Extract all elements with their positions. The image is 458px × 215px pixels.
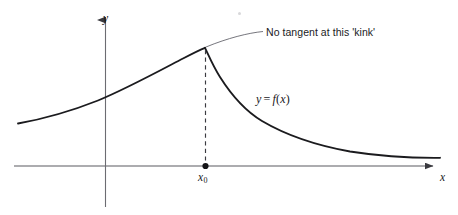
function-label-equals: =: [262, 92, 273, 106]
y-axis-label: y: [103, 13, 108, 25]
x0-tick-label-subscript: 0: [203, 176, 207, 185]
x0-point-marker: [202, 163, 208, 169]
curve-left-branch: [18, 48, 205, 124]
curve-right-branch: [205, 48, 440, 158]
kink-annotation-text: No tangent at this 'kink': [266, 27, 375, 38]
kink-function-diagram: y x x0 y=f(x) No tangent at this 'kink': [0, 0, 458, 215]
function-label-close-paren: ): [286, 92, 290, 106]
kink-leader-line: [206, 32, 263, 48]
function-equation-label: y=f(x): [256, 93, 290, 105]
x0-tick-label: x0: [198, 172, 207, 184]
function-label-y: y: [256, 92, 262, 106]
scan-speck-artifact: [238, 12, 241, 15]
x-axis-label: x: [440, 172, 445, 184]
plot-canvas: [0, 0, 458, 215]
